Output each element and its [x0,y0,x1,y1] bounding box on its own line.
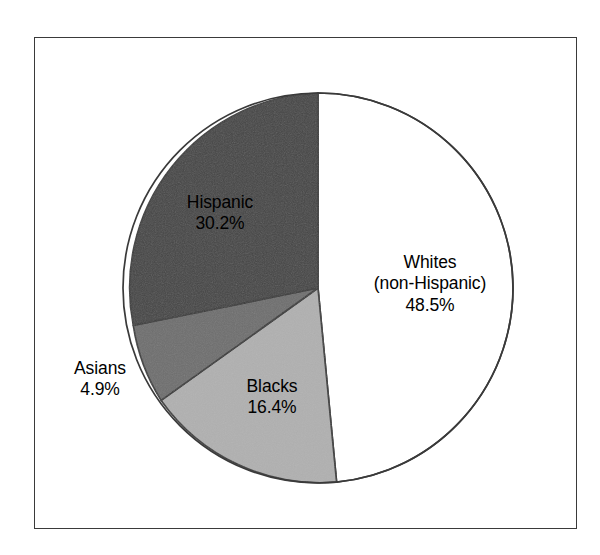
pie-label-whites-line2: (non-Hispanic) [374,273,486,293]
pie-label-hispanic-value: 30.2% [150,213,290,234]
pie-label-whites: Whites (non-Hispanic) 48.5% [340,252,520,316]
pie-label-hispanic: Hispanic 30.2% [150,192,290,235]
pie-label-hispanic-line1: Hispanic [187,192,253,212]
pie-label-whites-value: 48.5% [340,295,520,316]
pie-label-blacks: Blacks 16.4% [212,376,332,419]
pie-label-whites-line1: Whites [404,252,457,272]
pie-chart-figure: Whites (non-Hispanic) 48.5% Hispanic 30.… [0,0,600,555]
pie-label-blacks-line1: Blacks [247,376,298,396]
pie-label-asians-line1: Asians [74,358,126,378]
pie-label-asians: Asians 4.9% [40,358,160,401]
pie-label-blacks-value: 16.4% [212,397,332,418]
pie-label-asians-value: 4.9% [40,379,160,400]
